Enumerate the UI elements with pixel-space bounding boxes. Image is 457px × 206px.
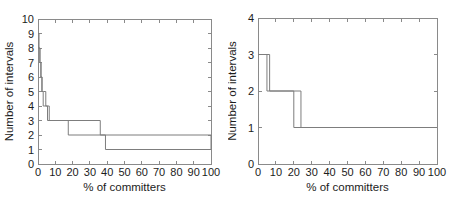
step-curve-series-2 xyxy=(38,48,211,150)
x-axis-tick-label: 50 xyxy=(118,166,130,178)
y-axis-tick-label: 4 xyxy=(248,12,254,24)
x-axis-tick-label: 90 xyxy=(188,166,200,178)
x-axis-tick-label: 30 xyxy=(84,166,96,178)
y-axis-tick-label: 3 xyxy=(28,115,34,127)
x-axis-tick-label: 80 xyxy=(170,166,182,178)
y-axis-tick-label: 2 xyxy=(248,85,254,97)
x-axis-tick-label: 10 xyxy=(270,166,282,178)
x-axis-tick-label: 40 xyxy=(101,166,113,178)
chart-panel-left: 0102030405060708090100012345678910% of c… xyxy=(0,0,228,206)
x-axis-tick-label: 100 xyxy=(202,166,220,178)
x-axis-tick-label: 50 xyxy=(341,166,353,178)
x-axis-label: % of committers xyxy=(83,181,166,193)
figure-container: 0102030405060708090100012345678910% of c… xyxy=(0,0,457,206)
x-axis-tick-label: 70 xyxy=(153,166,165,178)
plot-box-frame xyxy=(38,19,211,164)
y-axis-tick-label: 8 xyxy=(28,42,34,54)
x-axis-tick-label: 60 xyxy=(359,166,371,178)
y-axis-tick-label: 3 xyxy=(248,49,254,61)
x-axis-tick-label: 20 xyxy=(288,166,300,178)
x-axis-tick-label: 0 xyxy=(255,166,261,178)
x-axis-tick-label: 0 xyxy=(35,166,41,178)
chart-panel-right: 010203040506070809010001234% of committe… xyxy=(228,0,457,206)
x-axis-tick-label: 70 xyxy=(377,166,389,178)
y-axis-tick-label: 4 xyxy=(28,100,34,112)
left-step-chart: 0102030405060708090100012345678910% of c… xyxy=(0,0,228,206)
y-axis-tick-label: 6 xyxy=(28,71,34,83)
right-step-chart: 010203040506070809010001234% of committe… xyxy=(228,0,457,206)
x-axis-tick-label: 20 xyxy=(66,166,78,178)
x-axis-tick-label: 60 xyxy=(136,166,148,178)
step-curve-series-1 xyxy=(38,34,211,150)
y-axis-tick-label: 10 xyxy=(22,13,34,25)
y-axis-tick-label: 2 xyxy=(28,129,34,141)
y-axis-tick-label: 7 xyxy=(28,57,34,69)
y-axis-tick-label: 5 xyxy=(28,86,34,98)
y-axis-tick-label: 0 xyxy=(28,158,34,170)
x-axis-tick-label: 30 xyxy=(306,166,318,178)
y-axis-tick-label: 1 xyxy=(248,122,254,134)
x-axis-label: % of committers xyxy=(306,181,389,193)
x-axis-tick-label: 40 xyxy=(323,166,335,178)
x-axis-tick-label: 80 xyxy=(395,166,407,178)
step-curve-series-2 xyxy=(258,55,437,128)
y-axis-label: Number of intervals xyxy=(3,41,15,141)
y-axis-tick-label: 1 xyxy=(28,144,34,156)
y-axis-tick-label: 0 xyxy=(248,158,254,170)
x-axis-tick-label: 90 xyxy=(413,166,425,178)
y-axis-label: Number of intervals xyxy=(228,41,238,141)
y-axis-tick-label: 9 xyxy=(28,28,34,40)
x-axis-tick-label: 10 xyxy=(49,166,61,178)
x-axis-tick-label: 100 xyxy=(428,166,446,178)
